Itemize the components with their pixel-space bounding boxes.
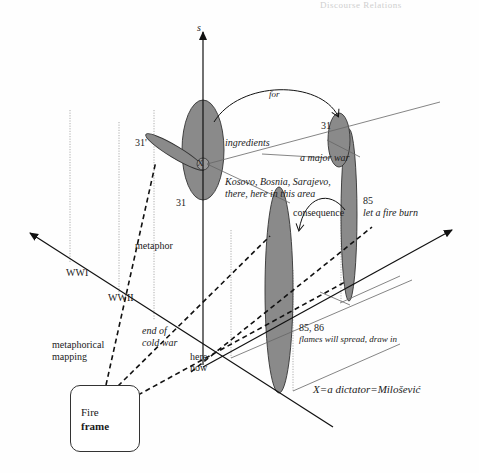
now-label: now: [190, 362, 207, 373]
axes: [30, 32, 452, 427]
space-axis: [203, 230, 452, 367]
frame-box-line1: Fire: [81, 406, 99, 418]
ref-85-86: 85, 86: [299, 322, 324, 333]
metaphorical-mapping-line1: metaphorical: [52, 339, 104, 350]
x-definition-label: X=a dictator=Milošević: [313, 384, 420, 395]
ref-31-prime: 31': [135, 137, 147, 148]
ref-85: 85: [363, 195, 373, 206]
places-label-line1: Kosovo, Bosnia, Sarajevo,: [225, 176, 331, 187]
for-label: for: [269, 89, 280, 100]
metaphorical-mapping-line2: mapping: [52, 351, 87, 362]
here-label: here: [190, 351, 207, 362]
ingredients-label: ingredients: [225, 137, 270, 148]
ref-31-right: 31: [321, 120, 331, 131]
a-major-war-label: a major war: [300, 152, 349, 163]
end-of-cold-war-line2: cold war: [142, 337, 177, 348]
vertical-axis-label: s: [197, 22, 201, 33]
x-marker-label: X: [197, 158, 204, 169]
frame-box-line2: frame: [81, 420, 109, 432]
fire-frame-box: Fire frame: [70, 385, 140, 452]
wwi-label: WWI: [66, 267, 88, 278]
ref-31-left: 31: [176, 197, 186, 208]
end-of-cold-war-line1: end of: [142, 325, 167, 336]
flames-will-spread-label: flames will spread, draw in: [299, 334, 397, 345]
wwii-label: WWII: [108, 292, 134, 303]
book-page: Discourse Relations: [0, 0, 479, 473]
consequence-label: consequence: [293, 207, 344, 218]
places-label-line2: there, here in this area: [225, 188, 315, 199]
metaphor-label: metaphor: [135, 240, 173, 251]
ellipse-85-86: [265, 187, 293, 393]
let-a-fire-burn-label: let a fire burn: [363, 207, 418, 218]
